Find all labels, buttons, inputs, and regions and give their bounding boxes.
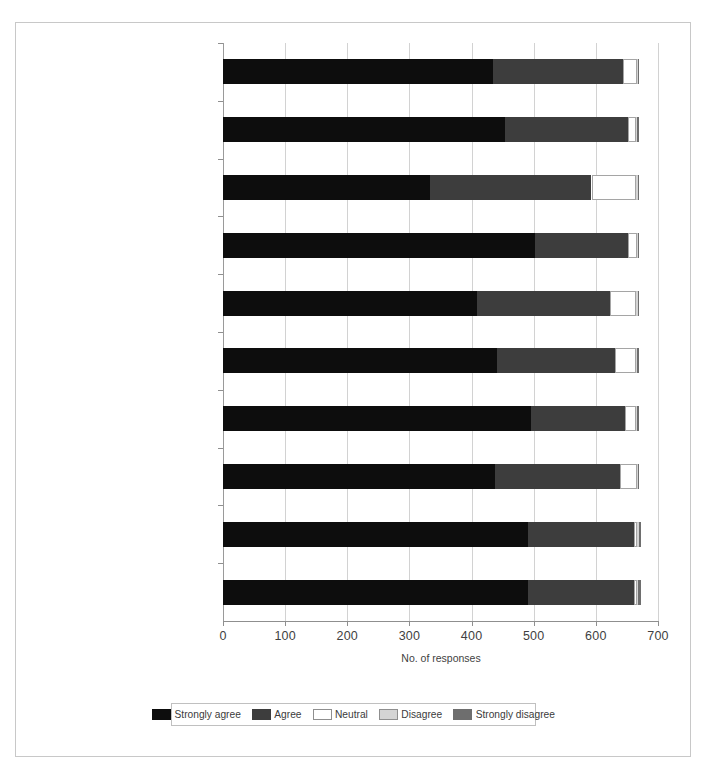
bar-segment-neutral[interactable] [623,59,637,84]
y-axis-tick [218,216,223,217]
bar-segment-strongly-disagree[interactable] [638,580,640,605]
x-axis-tick-label: 600 [566,629,626,643]
chart-row: Important past or current treatments orp… [223,448,658,506]
bar-segment-strongly-disagree[interactable] [637,117,639,142]
bar-segment-strongly-agree[interactable] [223,291,477,316]
bar-segment-agree[interactable] [528,522,635,547]
bar-segment-strongly-disagree[interactable] [638,175,639,200]
chart-row: Past or current infectious disease, incl… [223,274,658,332]
bar-segment-agree[interactable] [528,580,634,605]
y-axis-tick [218,159,223,160]
legend-swatch-neutral [313,709,332,720]
bar-segment-neutral[interactable] [628,233,637,258]
bar-segment-strongly-agree[interactable] [223,406,531,431]
bar-segment-strongly-agree[interactable] [223,522,528,547]
plot-area: Past or current symptoms or conditionsas… [223,43,658,621]
figure-panel: Past or current symptoms or conditionsas… [15,22,691,757]
chart-row: Physical trauma, including head injuries [223,563,658,621]
chart-row: Past or current symptoms or conditionsas… [223,43,658,101]
y-axis-tick [218,505,223,506]
chart-legend: Strongly agreeAgreeNeutralDisagreeStrong… [171,703,536,726]
x-axis-tick [223,621,224,626]
legend-label: Disagree [401,709,442,720]
chart-row: Past or current general medical illnesse… [223,505,658,563]
bar-segment-strongly-disagree[interactable] [637,348,639,373]
x-axis-tick-label: 100 [255,629,315,643]
chart-row: Sexual and reproductive history [223,159,658,217]
y-axis-tick [218,563,223,564]
y-axis-tick [218,43,223,44]
legend-entry[interactable]: Disagree [379,709,442,720]
bar-segment-neutral[interactable] [625,406,636,431]
y-axis-tick [218,274,223,275]
x-axis-tick [534,621,535,626]
gridline [658,43,659,621]
bar-segment-strongly-agree[interactable] [223,580,528,605]
bar-segment-strongly-agree[interactable] [223,233,535,258]
legend-swatch-agree [252,709,271,720]
legend-entry[interactable]: Strongly agree [152,709,241,720]
bar-segment-strongly-agree[interactable] [223,348,497,373]
x-axis-tick-label: 200 [317,629,377,643]
bar-segment-neutral[interactable] [620,464,637,489]
bar-segment-strongly-disagree[interactable] [638,59,639,84]
x-axis-tick [658,621,659,626]
bar-segment-strongly-agree[interactable] [223,175,430,200]
bar-segment-strongly-disagree[interactable] [638,464,639,489]
x-axis-spine [223,621,659,622]
bar-segment-agree[interactable] [497,348,615,373]
x-axis-tick-label: 700 [628,629,688,643]
chart-row: Past or current endocrinological disease [223,332,658,390]
bar-segment-agree[interactable] [493,59,623,84]
y-axis-tick [218,101,223,102]
legend-entry[interactable]: Strongly disagree [453,709,555,720]
bar-segment-neutral[interactable] [628,117,637,142]
bar-segment-agree[interactable] [505,117,627,142]
x-axis-tick-label: 500 [504,629,564,643]
legend-label: Strongly disagree [476,709,555,720]
bar-segment-neutral[interactable] [615,348,636,373]
x-axis-title: No. of responses [223,652,659,664]
x-axis-tick-label: 300 [379,629,439,643]
y-axis-tick [218,390,223,391]
bar-segment-agree[interactable] [430,175,592,200]
bar-segment-strongly-disagree[interactable] [638,233,639,258]
chart-row: Past or current sleep disorders, includi… [223,101,658,159]
legend-entry[interactable]: Neutral [313,709,368,720]
bar-segment-neutral[interactable] [610,291,636,316]
x-axis-tick [347,621,348,626]
legend-label: Strongly agree [175,709,241,720]
bar-segment-agree[interactable] [495,464,620,489]
chart-row: Allergies or drug sensitivities [223,390,658,448]
bar-segment-agree[interactable] [477,291,610,316]
x-axis-tick-label: 0 [193,629,253,643]
chart-canvas: Past or current symptoms or conditionsas… [16,23,692,758]
x-axis-tick-label: 400 [442,629,502,643]
bar-segment-strongly-disagree[interactable] [637,406,639,431]
bar-segment-strongly-disagree[interactable] [638,291,639,316]
bar-segment-strongly-agree[interactable] [223,464,495,489]
chart-row: Past or current neurological disordersor… [223,216,658,274]
bar-segment-agree[interactable] [535,233,628,258]
bar-segment-agree[interactable] [531,406,625,431]
legend-swatch-strongly-disagree [453,709,472,720]
x-axis-tick [409,621,410,626]
bar-segment-neutral[interactable] [592,175,637,200]
x-axis-tick [472,621,473,626]
x-axis-tick [596,621,597,626]
legend-label: Agree [274,709,301,720]
bar-segment-strongly-disagree[interactable] [639,522,641,547]
legend-swatch-disagree [379,709,398,720]
bar-segment-strongly-agree[interactable] [223,59,493,84]
bar-segment-strongly-agree[interactable] [223,117,505,142]
legend-swatch-strongly-agree [152,709,171,720]
legend-entry[interactable]: Agree [252,709,302,720]
y-axis-tick [218,448,223,449]
x-axis-tick [285,621,286,626]
y-axis-tick [218,332,223,333]
legend-label: Neutral [335,709,368,720]
